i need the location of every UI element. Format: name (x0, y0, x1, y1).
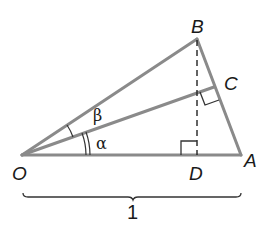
length-label: 1 (127, 201, 138, 223)
point-label-b: B (191, 16, 204, 37)
diagram-canvas: β α O A B C D 1 (0, 0, 268, 231)
right-angle-mark-d (181, 141, 197, 155)
alpha-arc-outer (86, 132, 90, 155)
point-label-d: D (189, 163, 203, 184)
angle-label-beta: β (93, 106, 102, 125)
point-label-a: A (243, 150, 257, 171)
beta-arc (67, 125, 73, 137)
length-brace (23, 193, 241, 200)
point-label-c: C (224, 73, 238, 94)
right-angle-mark-c (200, 92, 219, 105)
point-label-o: O (12, 163, 27, 184)
segment-oc (22, 87, 214, 155)
alpha-arc-inner (82, 133, 86, 155)
segment-ob (22, 39, 197, 155)
triangle-diagram: β α O A B C D 1 (0, 0, 268, 231)
angle-label-alpha: α (96, 134, 107, 153)
segment-ab (197, 39, 241, 155)
